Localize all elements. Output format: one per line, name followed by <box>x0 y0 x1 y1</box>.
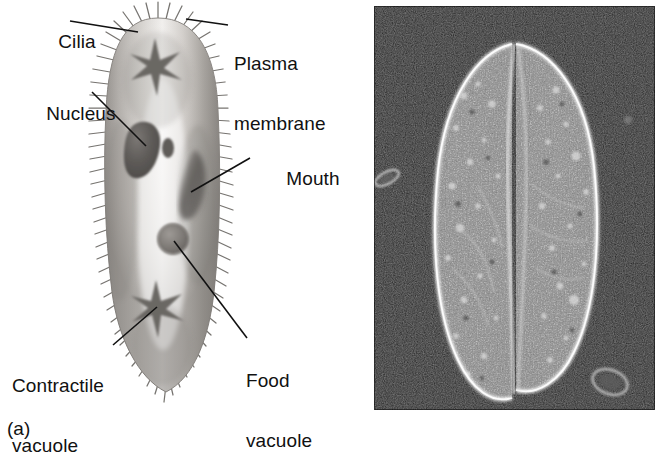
label-food-vacuole: Food vacuole <box>246 331 312 456</box>
panel-a-diagram: Cilia Plasma membrane Nucleus Mouth Cont… <box>0 0 360 456</box>
figure-paramecium: Cilia Plasma membrane Nucleus Mouth Cont… <box>0 0 666 456</box>
label-food-vacuole-line1: Food <box>246 371 312 391</box>
label-food-vacuole-line2: vacuole <box>246 431 312 451</box>
food-vacuole <box>158 224 188 254</box>
leader-plasma <box>186 19 228 25</box>
panel-b-micrograph: (b) <box>360 0 666 456</box>
micrograph-svg <box>360 0 666 456</box>
micrograph-frame <box>373 6 655 420</box>
label-plasma-membrane-line2: membrane <box>234 114 326 134</box>
label-nucleus: Nucleus <box>14 84 116 144</box>
label-cilia: Cilia <box>26 12 96 72</box>
label-mouth: Mouth <box>254 149 340 209</box>
label-contractile-vacuole-line1: Contractile <box>12 376 104 396</box>
panel-a-caption: (a) <box>7 418 30 440</box>
label-plasma-membrane-line1: Plasma <box>234 54 326 74</box>
micronucleus <box>162 138 174 158</box>
